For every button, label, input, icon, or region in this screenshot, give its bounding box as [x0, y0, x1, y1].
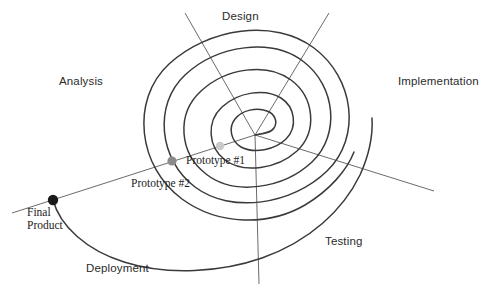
prototype-1-dot	[216, 142, 224, 150]
phase-label-implementation: Implementation	[398, 75, 479, 87]
phase-label-design: Design	[222, 10, 259, 22]
final-product-line-1: Final	[27, 206, 63, 219]
final-product-line-2: Product	[27, 219, 63, 232]
milestone-label-prototype-1: Prototype #1	[186, 154, 245, 166]
spiral-model-diagram: Design Analysis Implementation Testing D…	[0, 0, 491, 292]
phase-label-analysis: Analysis	[59, 75, 103, 87]
spiral-graphic	[0, 0, 491, 292]
milestone-label-prototype-2: Prototype #2	[131, 177, 190, 189]
radial-line-testing-deployment	[255, 135, 259, 284]
phase-label-testing: Testing	[325, 235, 363, 247]
prototype-2-dot	[167, 156, 176, 165]
phase-label-deployment: Deployment	[86, 262, 149, 274]
milestone-label-final-product: Final Product	[27, 206, 63, 231]
final-product-dot	[48, 195, 58, 205]
